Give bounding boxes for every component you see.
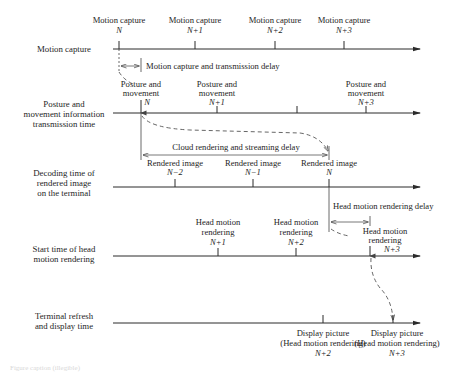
svg-text:Motion capture: Motion capture [37,44,91,54]
svg-text:N+2: N+2 [287,237,305,247]
svg-text:N−1: N−1 [244,167,261,177]
svg-text:Head motion: Head motion [274,217,319,227]
svg-text:movement information: movement information [24,109,105,119]
svg-text:motion rendering: motion rendering [34,254,95,264]
svg-text:Motion capture: Motion capture [169,15,222,25]
head-motion-event-N+1: Head motion rendering N+1 [196,217,241,256]
svg-text:Posture and: Posture and [43,99,85,109]
svg-text:Start time of head: Start time of head [33,244,96,254]
svg-text:N+3: N+3 [388,348,405,358]
svg-text:rendered image: rendered image [37,178,92,188]
svg-text:Motion capture: Motion capture [249,15,302,25]
posture-event-N: Posture and movement N [121,79,162,113]
svg-text:transmission time: transmission time [33,119,95,129]
head-motion-event-N+3: Head motion rendering N+3 [363,226,408,256]
svg-text:Display picture: Display picture [371,328,424,338]
svg-text:Terminal refresh: Terminal refresh [35,311,94,321]
svg-text:and display time: and display time [35,321,93,331]
head-to-display-curve [371,258,393,320]
row-label-terminal-refresh: Terminal refresh and display time [35,311,94,331]
svg-text:N+3: N+3 [383,244,400,254]
cloud-delay-annotation: Cloud rendering and streaming delay [141,113,329,160]
svg-text:on the terminal: on the terminal [37,188,91,198]
motion-capture-event-N+3: Motion capture N+3 [318,15,371,49]
svg-text:Motion capture: Motion capture [93,15,146,25]
svg-text:(Head motion rendering): (Head motion rendering) [280,338,366,348]
rendered-image-event-N-1: Rendered image N−1 [225,158,281,187]
svg-text:N: N [143,97,151,107]
motion-capture-event-N+1: Motion capture N+1 [169,15,222,49]
row-label-posture-transmission: Posture and movement information transmi… [24,99,105,129]
svg-text:N−2: N−2 [166,167,184,177]
motion-capture-event-N+2: Motion capture N+2 [249,15,302,49]
svg-text:Head motion: Head motion [196,217,241,227]
svg-text:N+1: N+1 [186,25,203,35]
svg-text:Head motion rendering delay: Head motion rendering delay [333,201,434,211]
svg-text:rendering: rendering [280,227,314,237]
svg-text:N+3: N+3 [357,97,374,107]
posture-event-N+3: Posture and movement N+3 [346,79,387,113]
figure-caption: Figure caption (illegible) [10,364,81,372]
svg-text:N+1: N+1 [209,237,226,247]
timing-diagram: Motion capture Posture and movement info… [0,0,462,375]
display-event-N+3: Display picture (Head motion rendering) … [354,315,440,358]
row-label-decoding: Decoding time of rendered image on the t… [33,168,95,198]
row-label-head-motion-start: Start time of head motion rendering [33,244,96,264]
svg-text:N+2: N+2 [314,348,332,358]
svg-text:Motion capture and transmissio: Motion capture and transmission delay [146,61,280,71]
svg-text:N: N [115,25,123,35]
svg-text:movement: movement [123,88,160,98]
svg-text:(Head motion rendering): (Head motion rendering) [354,338,440,348]
head-motion-event-N+2: Head motion rendering N+2 [274,217,319,256]
svg-text:Cloud rendering and streaming: Cloud rendering and streaming delay [172,142,300,152]
svg-text:Decoding time of: Decoding time of [33,168,95,178]
svg-text:N+3: N+3 [335,25,352,35]
posture-event-N+1: Posture and movement N+1 [197,79,238,113]
motion-capture-event-N: Motion capture N [93,15,146,49]
svg-text:Display picture: Display picture [297,328,350,338]
svg-text:N+2: N+2 [266,25,284,35]
svg-text:N+1: N+1 [208,97,225,107]
row-label-motion-capture: Motion capture [37,44,91,54]
svg-text:Motion capture: Motion capture [318,15,371,25]
rendered-image-event-N: Rendered image N [301,158,357,187]
svg-text:rendering: rendering [202,227,236,237]
svg-text:N: N [325,167,333,177]
rendered-image-event-N-2: Rendered image N−2 [147,158,203,187]
display-event-N+2: Display picture (Head motion rendering) … [280,315,366,358]
